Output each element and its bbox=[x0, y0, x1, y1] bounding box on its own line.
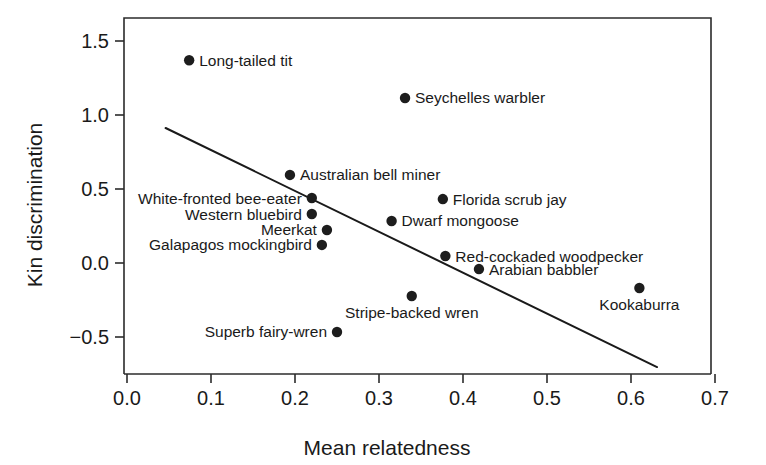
x-tick-label: 0.3 bbox=[365, 387, 393, 409]
data-point-marker bbox=[307, 209, 317, 219]
data-point: Galapagos mockingbird bbox=[149, 236, 327, 253]
data-point: Superb fairy-wren bbox=[205, 323, 343, 340]
data-point-label: Seychelles warbler bbox=[415, 89, 545, 106]
data-point: Western bluebird bbox=[185, 206, 317, 223]
data-point-label: Arabian babbler bbox=[489, 261, 598, 278]
data-points: Long-tailed titSeychelles warblerAustral… bbox=[138, 52, 680, 341]
data-point-marker bbox=[634, 283, 644, 293]
data-point-label: Dwarf mongoose bbox=[402, 212, 519, 229]
data-point-marker bbox=[285, 170, 295, 180]
data-point-marker bbox=[474, 264, 484, 274]
data-point-marker bbox=[386, 216, 396, 226]
x-axis-title: Mean relatedness bbox=[304, 436, 471, 459]
data-point-label: Long-tailed tit bbox=[199, 52, 293, 69]
data-point: Dwarf mongoose bbox=[386, 212, 518, 229]
x-tick-label: 0.5 bbox=[533, 387, 561, 409]
scatter-plot-figure: 0.00.10.20.30.40.50.60.7 1.51.00.50.0−0.… bbox=[0, 0, 766, 465]
data-point-marker bbox=[440, 251, 450, 261]
data-point-marker bbox=[322, 225, 332, 235]
data-point: Long-tailed tit bbox=[184, 52, 293, 69]
data-point-marker bbox=[332, 327, 342, 337]
x-tick-label: 0.0 bbox=[113, 387, 141, 409]
x-tick-label: 0.6 bbox=[617, 387, 645, 409]
data-point-label: Kookaburra bbox=[599, 296, 680, 313]
data-point-label: Superb fairy-wren bbox=[205, 323, 327, 340]
x-tick-label: 0.7 bbox=[701, 387, 729, 409]
data-point: Arabian babbler bbox=[474, 261, 599, 278]
data-point-label: Stripe-backed wren bbox=[345, 304, 479, 321]
data-point: Kookaburra bbox=[599, 283, 680, 313]
x-tick-label: 0.2 bbox=[281, 387, 309, 409]
data-point-label: Australian bell miner bbox=[300, 166, 440, 183]
y-axis-title: Kin discrimination bbox=[23, 123, 46, 288]
x-tick-label: 0.4 bbox=[449, 387, 477, 409]
data-point-marker bbox=[400, 93, 410, 103]
data-point-marker bbox=[184, 55, 194, 65]
data-point: White-fronted bee-eater bbox=[138, 190, 317, 207]
x-axis-ticks: 0.00.10.20.30.40.50.60.7 bbox=[113, 374, 729, 409]
data-point-label: Galapagos mockingbird bbox=[149, 236, 312, 253]
y-axis-ticks: 1.51.00.50.0−0.5 bbox=[70, 30, 124, 348]
data-point-marker bbox=[307, 193, 317, 203]
y-tick-label: 1.5 bbox=[81, 30, 109, 52]
data-point: Florida scrub jay bbox=[438, 191, 567, 208]
plot-canvas: 0.00.10.20.30.40.50.60.7 1.51.00.50.0−0.… bbox=[0, 0, 766, 465]
data-point-marker bbox=[438, 194, 448, 204]
data-point-marker bbox=[407, 291, 417, 301]
data-point: Australian bell miner bbox=[285, 166, 441, 183]
data-point-label: Western bluebird bbox=[185, 206, 302, 223]
data-point-label: Florida scrub jay bbox=[453, 191, 567, 208]
data-point: Seychelles warbler bbox=[400, 89, 545, 106]
data-point-marker bbox=[317, 240, 327, 250]
y-tick-label: 1.0 bbox=[81, 104, 109, 126]
data-point: Stripe-backed wren bbox=[345, 291, 479, 321]
data-point-label: White-fronted bee-eater bbox=[138, 190, 302, 207]
y-tick-label: 0.5 bbox=[81, 178, 109, 200]
y-tick-label: −0.5 bbox=[70, 326, 109, 348]
y-tick-label: 0.0 bbox=[81, 252, 109, 274]
x-tick-label: 0.1 bbox=[197, 387, 225, 409]
